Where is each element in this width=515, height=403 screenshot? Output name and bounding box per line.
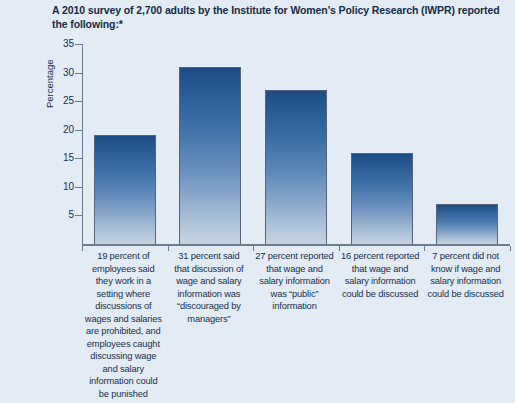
bar[interactable]	[94, 135, 156, 244]
category-label: 16 percent reported that wage and salary…	[341, 250, 420, 300]
y-axis-tick-label: 5	[46, 210, 74, 220]
bar[interactable]	[265, 90, 327, 244]
y-axis-tick-label: 15	[46, 153, 74, 163]
x-axis-tick	[510, 246, 511, 251]
y-axis-tick-label: 25	[46, 96, 74, 106]
y-axis-tick	[75, 73, 82, 74]
y-axis-tick	[75, 101, 82, 102]
x-axis-line	[82, 244, 510, 246]
y-axis-tick	[75, 158, 82, 159]
y-axis-tick-label: 35	[46, 39, 74, 49]
y-axis-line	[82, 44, 83, 245]
bar[interactable]	[351, 153, 413, 244]
page-title: A 2010 survey of 2,700 adults by the Ins…	[52, 3, 504, 31]
y-axis-tick	[75, 44, 82, 45]
bar[interactable]	[179, 67, 241, 244]
category-label: 27 percent reported that wage and salary…	[255, 250, 334, 313]
category-label: 7 percent did not know if wage and salar…	[426, 250, 505, 300]
y-axis-tick-label: 20	[46, 125, 74, 135]
chart-plot-area: 5101520253035	[82, 44, 510, 244]
category-label: 31 percent said that discussion of wage …	[170, 250, 249, 325]
y-axis-tick	[75, 187, 82, 188]
y-axis-tick	[75, 130, 82, 131]
category-labels-group: 19 percent of employees said they work i…	[82, 250, 510, 400]
y-axis-tick-label: 10	[46, 182, 74, 192]
category-label: 19 percent of employees said they work i…	[84, 250, 163, 400]
bar[interactable]	[436, 204, 498, 244]
y-axis-tick-label: 30	[46, 68, 74, 78]
y-axis-tick	[75, 215, 82, 216]
